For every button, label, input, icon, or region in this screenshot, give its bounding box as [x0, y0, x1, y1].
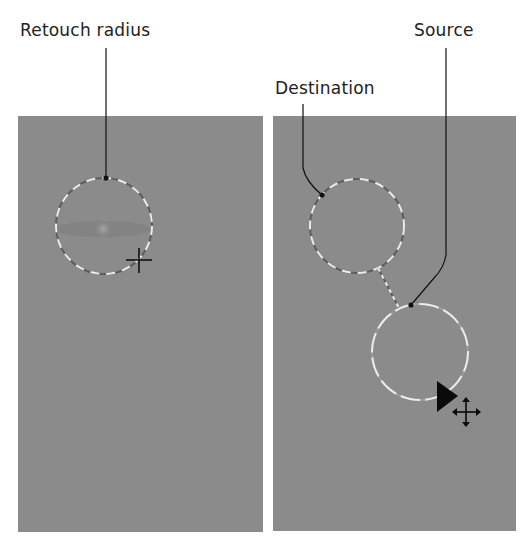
move-cursor-icon	[452, 397, 481, 427]
source-circle[interactable]	[372, 304, 468, 400]
leader-retouch-radius	[103, 48, 108, 181]
annotation-overlay	[0, 0, 523, 547]
leader-destination	[303, 104, 325, 198]
leader-source	[408, 48, 446, 308]
source-destination-connector	[378, 268, 399, 308]
destination-circle[interactable]	[310, 179, 404, 273]
crosshair-cursor-icon	[126, 248, 152, 273]
